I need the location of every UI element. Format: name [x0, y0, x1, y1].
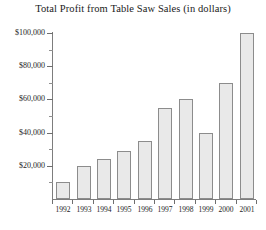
- y-tick-label: $40,000: [0, 128, 45, 137]
- bar-2001: [240, 33, 254, 199]
- bar-2000: [219, 83, 233, 199]
- y-tick-label: $60,000: [0, 94, 45, 103]
- chart-title: Total Profit from Table Saw Sales (in do…: [0, 3, 266, 14]
- x-tick: [256, 200, 257, 204]
- x-tick: [134, 200, 135, 204]
- x-tick: [236, 200, 237, 204]
- bar-chart-figure: Total Profit from Table Saw Sales (in do…: [0, 0, 266, 230]
- bar-1998: [179, 99, 193, 199]
- bar-1996: [138, 141, 152, 199]
- bar-1994: [97, 159, 111, 199]
- x-tick: [154, 200, 155, 204]
- plot-area: [52, 33, 258, 199]
- x-tick: [113, 200, 114, 204]
- bar-1992: [56, 182, 70, 199]
- y-tick-label: $80,000: [0, 61, 45, 70]
- y-tick-label: $100,000: [0, 28, 45, 37]
- x-tick: [93, 200, 94, 204]
- bar-1993: [77, 166, 91, 199]
- x-tick: [52, 200, 53, 204]
- x-tick: [215, 200, 216, 204]
- x-tick: [174, 200, 175, 204]
- x-tick: [195, 200, 196, 204]
- x-tick-label-2001: 2001: [235, 205, 259, 214]
- x-tick: [72, 200, 73, 204]
- bar-1999: [199, 133, 213, 199]
- bar-1995: [117, 151, 131, 199]
- y-tick-label: $20,000: [0, 161, 45, 170]
- bar-1997: [158, 108, 172, 199]
